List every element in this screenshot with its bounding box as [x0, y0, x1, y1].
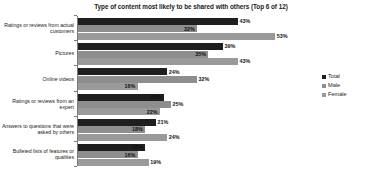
bar-female [78, 134, 167, 141]
bar-male [78, 76, 197, 83]
legend-item[interactable]: Female [322, 90, 374, 99]
bar-value-label: 43% [239, 18, 250, 25]
bar-male [78, 51, 208, 58]
axis-tick [74, 91, 77, 92]
legend-label: Female [328, 90, 347, 99]
bar-group: Online videos24%32%16% [0, 68, 300, 90]
bar-group: Ratings or reviews from an expert23%25%2… [0, 94, 300, 116]
category-label: Pictures [0, 50, 74, 56]
bar-total [78, 43, 223, 50]
bar-group: Bulleted lists of features or qualities1… [0, 144, 300, 166]
axis-tick [74, 116, 77, 117]
bar-value-label: 24% [169, 69, 180, 76]
legend-swatch-icon [322, 84, 326, 88]
category-label: Ratings or reviews from actual customers [0, 22, 74, 35]
bar-value-label: 23% [151, 94, 162, 101]
bar-value-label: 22% [147, 109, 158, 116]
bar-value-label: 16% [125, 152, 136, 159]
category-label: Bulleted lists of features or qualities [0, 148, 74, 161]
bar-total [78, 68, 167, 75]
legend-item[interactable]: Male [322, 81, 374, 90]
bar-value-label: 18% [132, 126, 143, 133]
bar-value-label: 32% [199, 76, 210, 83]
legend-label: Total [328, 72, 340, 81]
bar-value-label: 19% [150, 159, 161, 166]
bar-value-label: 18% [132, 144, 143, 151]
bar-value-label: 35% [195, 51, 206, 58]
legend-label: Male [328, 81, 340, 90]
axis-tick [74, 40, 77, 41]
bar-female [78, 58, 238, 65]
chart-title: Type of content most likely to be shared… [62, 3, 320, 11]
bar-total [78, 18, 238, 25]
axis-tick [74, 141, 77, 142]
bar-value-label: 53% [277, 33, 288, 40]
bar-female [78, 159, 149, 166]
category-label: Answers to questions that were asked by … [0, 123, 74, 136]
bar-female [78, 33, 275, 40]
axis-tick [74, 166, 77, 167]
bar-value-label: 39% [225, 43, 236, 50]
bar-value-label: 25% [173, 101, 184, 108]
legend-item[interactable]: Total [322, 72, 374, 81]
category-label: Ratings or reviews from an expert [0, 98, 74, 111]
bar-group: Ratings or reviews from actual customers… [0, 18, 300, 40]
legend-swatch-icon [322, 93, 326, 97]
bar-value-label: 24% [169, 134, 180, 141]
plot-area: Ratings or reviews from actual customers… [0, 16, 300, 168]
bar-value-label: 43% [239, 58, 250, 65]
bar-male [78, 101, 171, 108]
bar-chart: Type of content most likely to be shared… [0, 0, 374, 172]
bar-total [78, 119, 156, 126]
bar-value-label: 16% [125, 83, 136, 90]
bar-male [78, 25, 197, 32]
category-label: Online videos [0, 76, 74, 82]
axis-tick [74, 15, 77, 16]
bar-group: Pictures39%35%43% [0, 43, 300, 65]
bar-group: Answers to questions that were asked by … [0, 119, 300, 141]
bar-value-label: 21% [158, 119, 169, 126]
chart-legend: TotalMaleFemale [322, 72, 374, 99]
bar-value-label: 32% [184, 26, 195, 33]
legend-swatch-icon [322, 75, 326, 79]
axis-tick [74, 65, 77, 66]
